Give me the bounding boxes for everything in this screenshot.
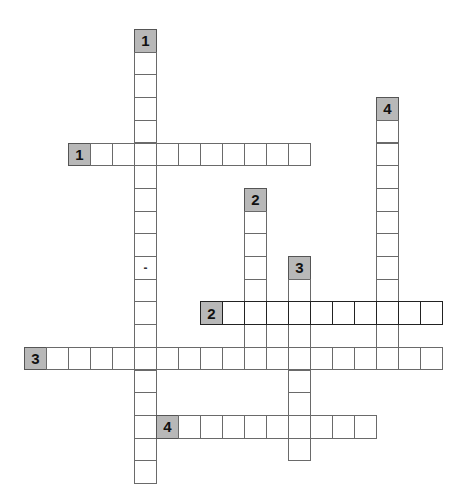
grid-cell[interactable] (134, 165, 157, 189)
clue-number-cell-4-across[interactable]: 4 (156, 415, 179, 439)
grid-cell[interactable] (244, 233, 267, 257)
grid-cell[interactable] (200, 143, 223, 167)
grid-cell[interactable] (134, 279, 157, 303)
grid-cell[interactable] (288, 438, 311, 462)
grid-cell[interactable] (376, 143, 399, 167)
grid-cell[interactable] (376, 256, 399, 280)
grid-cell[interactable] (288, 279, 311, 303)
grid-cell[interactable] (376, 211, 399, 235)
grid-cell[interactable] (156, 143, 179, 167)
grid-cell[interactable] (134, 120, 157, 144)
clue-number: 1 (135, 30, 156, 52)
grid-cell[interactable] (134, 347, 157, 371)
clue-number: 3 (25, 348, 46, 370)
grid-cell[interactable] (134, 97, 157, 121)
grid-cell[interactable] (376, 301, 399, 325)
clue-number: 2 (201, 302, 222, 324)
clue-number: 1 (69, 144, 90, 166)
grid-cell[interactable] (398, 347, 421, 371)
grid-cell[interactable] (244, 256, 267, 280)
grid-cell[interactable] (134, 324, 157, 348)
grid-cell[interactable] (90, 347, 113, 371)
grid-cell[interactable] (222, 347, 245, 371)
grid-cell[interactable] (134, 143, 157, 167)
grid-cell[interactable] (134, 74, 157, 98)
grid-cell[interactable] (310, 415, 333, 439)
clue-number-cell-3-down[interactable]: 3 (288, 256, 311, 280)
grid-cell[interactable] (266, 415, 289, 439)
grid-cell[interactable] (222, 415, 245, 439)
grid-cell[interactable] (244, 143, 267, 167)
grid-cell[interactable] (134, 370, 157, 394)
grid-cell[interactable] (68, 347, 91, 371)
grid-cell[interactable] (222, 143, 245, 167)
grid-cell[interactable] (244, 347, 267, 371)
grid-cell[interactable] (288, 143, 311, 167)
grid-cell[interactable] (420, 301, 443, 325)
grid-cell[interactable] (90, 143, 113, 167)
grid-cell[interactable] (244, 324, 267, 348)
grid-cell[interactable] (332, 347, 355, 371)
clue-number-cell-2-down[interactable]: 2 (244, 188, 267, 212)
grid-cell[interactable] (354, 301, 377, 325)
grid-cell[interactable] (376, 347, 399, 371)
grid-cell[interactable] (178, 143, 201, 167)
grid-cell[interactable] (134, 415, 157, 439)
grid-cell[interactable] (266, 143, 289, 167)
grid-cell[interactable] (266, 301, 289, 325)
grid-cell[interactable] (332, 301, 355, 325)
grid-cell[interactable] (288, 415, 311, 439)
grid-cell[interactable] (46, 347, 69, 371)
clue-number: 3 (289, 257, 310, 279)
grid-cell[interactable] (134, 438, 157, 462)
grid-cell[interactable] (244, 279, 267, 303)
grid-cell[interactable] (288, 392, 311, 416)
clue-number-cell-4-down[interactable]: 4 (376, 97, 399, 121)
clue-number: 4 (157, 416, 178, 438)
grid-cell[interactable] (288, 370, 311, 394)
grid-cell[interactable] (376, 233, 399, 257)
grid-cell[interactable] (200, 415, 223, 439)
grid-cell[interactable] (310, 347, 333, 371)
grid-cell[interactable] (200, 347, 223, 371)
grid-cell[interactable] (134, 301, 157, 325)
grid-cell[interactable] (134, 52, 157, 76)
grid-cell[interactable] (376, 165, 399, 189)
grid-cell[interactable] (266, 347, 289, 371)
grid-cell[interactable] (244, 211, 267, 235)
crossword-grid: 1-1234342 (0, 0, 465, 504)
hyphen-mark: - (135, 257, 156, 279)
grid-cell[interactable] (288, 347, 311, 371)
grid-cell[interactable] (112, 347, 135, 371)
grid-cell[interactable] (288, 324, 311, 348)
grid-cell[interactable] (376, 120, 399, 144)
grid-cell[interactable] (156, 347, 179, 371)
clue-number-cell-1-down[interactable]: 1 (134, 29, 157, 53)
grid-cell[interactable] (178, 415, 201, 439)
grid-cell[interactable] (398, 301, 421, 325)
grid-cell[interactable] (354, 347, 377, 371)
grid-cell[interactable] (354, 415, 377, 439)
grid-cell[interactable] (376, 324, 399, 348)
grid-cell[interactable] (178, 347, 201, 371)
clue-number-cell-2-across[interactable]: 2 (200, 301, 223, 325)
grid-cell[interactable] (134, 392, 157, 416)
grid-cell[interactable] (332, 415, 355, 439)
grid-cell[interactable] (134, 188, 157, 212)
grid-cell[interactable] (222, 301, 245, 325)
grid-cell[interactable] (134, 233, 157, 257)
grid-cell[interactable] (134, 211, 157, 235)
grid-cell[interactable] (288, 301, 311, 325)
grid-cell[interactable] (134, 460, 157, 484)
clue-number: 4 (377, 98, 398, 120)
grid-cell[interactable] (420, 347, 443, 371)
clue-number-cell-1-across[interactable]: 1 (68, 143, 91, 167)
grid-cell[interactable] (376, 279, 399, 303)
grid-cell[interactable] (244, 301, 267, 325)
grid-cell[interactable]: - (134, 256, 157, 280)
grid-cell[interactable] (112, 143, 135, 167)
grid-cell[interactable] (310, 301, 333, 325)
grid-cell[interactable] (244, 415, 267, 439)
grid-cell[interactable] (376, 188, 399, 212)
clue-number-cell-3-across[interactable]: 3 (24, 347, 47, 371)
